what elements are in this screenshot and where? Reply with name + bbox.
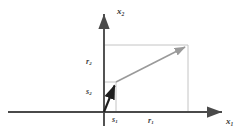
x-axis-label-sub: 1 <box>231 121 234 127</box>
vector-diagram-figure: x2 x1 r2 s2 s1 r1 <box>0 0 241 138</box>
y-axis-label: x2 <box>117 7 124 16</box>
component-label-r2: r2 <box>86 58 92 66</box>
component-label-r2-sub: 2 <box>89 61 91 66</box>
axes-group <box>8 14 222 126</box>
y-axis-label-sub: 2 <box>122 11 125 17</box>
diagram-canvas <box>0 0 241 138</box>
component-label-s1: s1 <box>112 116 118 124</box>
component-label-s2: s2 <box>86 88 92 96</box>
component-label-s2-sub: 2 <box>89 91 91 96</box>
component-label-r1: r1 <box>148 117 154 125</box>
x-axis-label: x1 <box>226 117 233 126</box>
construction-guides <box>104 45 188 112</box>
y-axis-label-base: x <box>117 6 122 16</box>
vector-r <box>116 47 185 82</box>
vector-s <box>104 86 115 113</box>
component-label-r1-sub: 1 <box>151 120 153 125</box>
x-axis-label-base: x <box>226 116 231 126</box>
component-label-s1-sub: 1 <box>115 119 117 124</box>
